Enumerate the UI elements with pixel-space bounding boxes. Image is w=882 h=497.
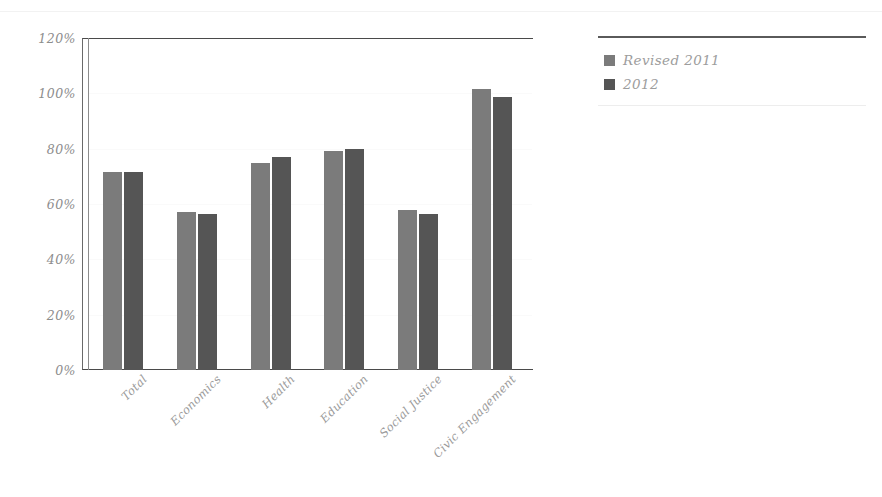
bar-chart: 0%20%40%60%80%100%120% TotalEconomicsHea… [0,0,570,497]
y-axis-tick-40: 40% [6,252,76,267]
y-axis-tick-20: 20% [6,307,76,322]
x-axis-label-economics: Economics [167,372,223,428]
bar-total-2012 [124,172,143,370]
x-axis-label-health: Health [258,372,297,411]
y-axis-tick-0: 0% [6,363,76,378]
x-axis-label-civic-engagement: Civic Engagement [430,372,519,461]
bar-education-2012 [345,149,364,370]
y-axis-tick-60: 60% [6,197,76,212]
x-axis-label-social-justice: Social Justice [377,372,445,440]
bar-series-layer [89,38,532,370]
bar-economics-revised-2011 [177,212,196,370]
bar-civic-engagement-revised-2011 [472,89,491,370]
bar-total-revised-2011 [103,172,122,370]
legend-divider-top [598,36,866,38]
legend-item-2012[interactable]: 2012 [604,76,659,92]
y-axis-tick-80: 80% [6,141,76,156]
bar-civic-engagement-2012 [493,97,512,370]
legend-swatch-revised-2011-icon [604,55,615,66]
x-axis-label-education: Education [318,372,372,426]
legend-item-revised-2011[interactable]: Revised 2011 [604,52,720,68]
legend-label-revised-2011: Revised 2011 [623,52,720,68]
legend-swatch-2012-icon [604,79,615,90]
y-axis-tick-120: 120% [6,31,76,46]
bar-social-justice-revised-2011 [398,210,417,370]
x-axis-category-labels: TotalEconomicsHealthEducationSocial Just… [89,372,532,492]
y-axis-tick-labels: 0%20%40%60%80%100%120% [0,0,76,497]
bar-health-2012 [272,157,291,370]
y-axis-tick-100: 100% [6,86,76,101]
legend-divider-bottom [598,105,866,106]
chart-legend: Revised 2011 2012 [598,36,868,116]
bar-health-revised-2011 [251,163,270,371]
bar-economics-2012 [198,214,217,370]
legend-label-2012: 2012 [623,76,659,92]
bar-social-justice-2012 [419,214,438,370]
x-axis-label-total: Total [118,372,149,403]
bar-education-revised-2011 [324,151,343,370]
